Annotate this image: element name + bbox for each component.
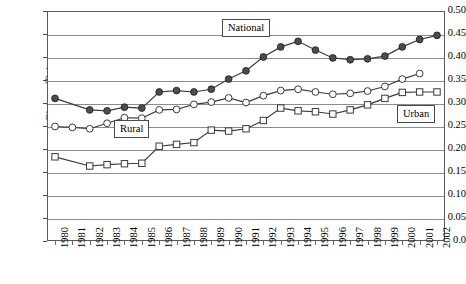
x-axis-tick-mark (177, 241, 178, 245)
x-axis-tick-mark (229, 241, 230, 245)
x-axis-tick-label: 1983 (111, 235, 122, 248)
gridline (48, 58, 444, 59)
x-axis-tick-label: 1993 (285, 235, 296, 248)
x-axis-tick-label: 1984 (128, 235, 139, 248)
x-axis-tick-label: 1995 (319, 235, 330, 248)
x-axis-tick-mark (350, 241, 351, 245)
x-axis-tick-mark (315, 241, 316, 245)
x-axis-tick-label: 1992 (267, 235, 278, 248)
x-axis-tick-mark (194, 241, 195, 245)
x-axis-tick-mark (72, 241, 73, 245)
series-label-rural: Rural (114, 120, 149, 138)
x-axis-tick-mark (124, 241, 125, 245)
x-axis-tick-mark (368, 241, 369, 245)
x-axis-tick-label: 2002 (441, 235, 452, 248)
x-axis-tick-mark (55, 241, 56, 245)
x-axis-tick-label: 1985 (146, 235, 157, 248)
x-axis-tick-label: 1982 (94, 235, 105, 248)
figure-root: Gini coefficient 0.00.050.100.150.200.25… (0, 0, 466, 284)
x-axis-tick-mark (420, 241, 421, 245)
x-axis-tick-label: 1991 (250, 235, 261, 248)
x-axis-tick-mark (385, 241, 386, 245)
x-axis-tick-label: 1986 (163, 235, 174, 248)
x-axis-tick-mark (159, 241, 160, 245)
x-axis-tick-label: 1996 (337, 235, 348, 248)
gridline (48, 104, 444, 105)
x-axis-tick-label: 1990 (233, 235, 244, 248)
gridline (48, 127, 444, 128)
gridline (48, 150, 444, 151)
x-axis-tick-mark (246, 241, 247, 245)
x-axis-tick-mark (437, 241, 438, 245)
x-axis-tick-mark (107, 241, 108, 245)
x-axis-tick-label: 1987 (181, 235, 192, 248)
gridline (48, 219, 444, 220)
x-axis-tick-label: 1988 (198, 235, 209, 248)
x-axis-tick-label: 1980 (59, 235, 70, 248)
x-axis-tick-label: 2001 (424, 235, 435, 248)
gridline (48, 196, 444, 197)
x-axis-tick-mark (298, 241, 299, 245)
x-axis-tick-mark (142, 241, 143, 245)
x-axis-tick-mark (263, 241, 264, 245)
x-axis-tick-label: 1997 (354, 235, 365, 248)
gridline (48, 81, 444, 82)
x-axis-tick-label: 2000 (406, 235, 417, 248)
x-axis-tick-label: 1998 (372, 235, 383, 248)
x-axis-tick-label: 1994 (302, 235, 313, 248)
x-axis-tick-mark (281, 241, 282, 245)
plot-area (47, 11, 445, 241)
series-label-national: National (222, 19, 270, 37)
series-label-urban: Urban (397, 105, 435, 123)
x-axis-tick-mark (333, 241, 334, 245)
x-axis-tick-label: 1999 (389, 235, 400, 248)
x-axis-tick-label: 1989 (215, 235, 226, 248)
x-axis-tick-mark (402, 241, 403, 245)
gridline (48, 173, 444, 174)
x-axis-tick-label: 1981 (76, 235, 87, 248)
y-axis-tick-mark (43, 241, 47, 242)
x-axis-tick-mark (211, 241, 212, 245)
x-axis-tick-mark (90, 241, 91, 245)
